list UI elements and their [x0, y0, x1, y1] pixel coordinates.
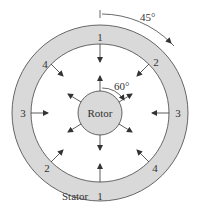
angle-45-label: 45°	[140, 11, 155, 23]
stepper-motor-diagram: 45° 60° Rotor Stator 1 2 3 4 1 2 3 4	[0, 0, 199, 219]
rotor-label: Rotor	[87, 107, 112, 119]
stator-label: Stator	[62, 190, 89, 202]
pole-label-3-right: 3	[175, 107, 181, 119]
pole-label-1-bottom: 1	[97, 190, 103, 202]
pole-label-2-top-right: 2	[153, 56, 159, 68]
pole-label-4-top-left: 4	[42, 58, 48, 70]
pole-label-4-bottom-right: 4	[152, 162, 158, 174]
angle-60-label: 60°	[114, 80, 129, 92]
pole-label-1-top: 1	[97, 31, 103, 43]
pole-label-3-left: 3	[20, 107, 26, 119]
pole-label-2-bottom-left: 2	[44, 162, 50, 174]
